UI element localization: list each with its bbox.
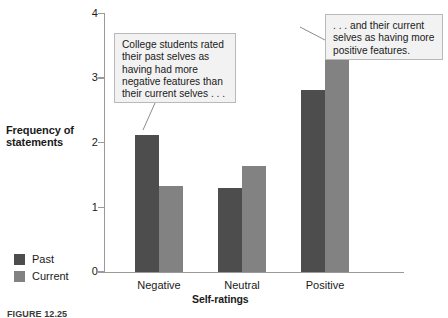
legend-label-current: Current: [32, 270, 69, 282]
x-axis-title: Self-ratings: [192, 293, 249, 305]
legend-label-past: Past: [32, 253, 54, 265]
x-axis-line: [104, 272, 404, 273]
bar-neutral-current[interactable]: [242, 166, 266, 272]
x-label-neutral: Neutral: [224, 279, 259, 291]
bar-negative-current[interactable]: [159, 186, 183, 272]
y-tick-label-4: 4: [92, 7, 98, 19]
bar-positive-past[interactable]: [301, 90, 325, 272]
x-label-negative: Negative: [137, 279, 180, 291]
y-tick-label-2: 2: [92, 136, 98, 148]
callout-past-selves: College students rated their past selves…: [114, 33, 236, 103]
callout-current-selves: . . . and their current selves as having…: [325, 14, 443, 60]
legend-swatch-past-icon: [14, 254, 25, 265]
x-label-positive: Positive: [306, 279, 345, 291]
y-tick-label-3: 3: [92, 71, 98, 83]
legend-item-current[interactable]: Current: [14, 268, 69, 284]
y-tick-label-1: 1: [92, 201, 98, 213]
figure-container: Frequency of statements 0 1 2 3 4: [0, 0, 448, 318]
y-axis-title-line1: Frequency of: [6, 124, 102, 136]
bar-negative-past[interactable]: [135, 135, 159, 272]
bar-neutral-past[interactable]: [218, 188, 242, 272]
y-axis-title-line2: statements: [6, 136, 102, 148]
y-tick-label-0: 0: [92, 265, 98, 277]
y-axis-title: Frequency of statements: [6, 124, 102, 148]
legend: Past Current: [14, 251, 69, 285]
figure-caption-label: FIGURE 12.25: [7, 309, 67, 318]
legend-item-past[interactable]: Past: [14, 251, 69, 267]
legend-swatch-current-icon: [14, 271, 25, 282]
